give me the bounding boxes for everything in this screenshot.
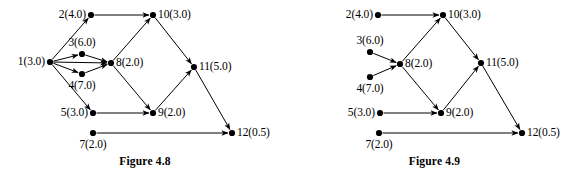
graph-edge-9-to-11 bbox=[443, 66, 478, 110]
graph-edge-3-to-8 bbox=[373, 53, 396, 62]
graph-node-label-10: 10(3.0) bbox=[448, 9, 481, 21]
figure-caption-4-8: Figure 4.8 bbox=[0, 155, 290, 167]
graph-node-label-2: 2(4.0) bbox=[346, 9, 373, 21]
graph-node-4 bbox=[79, 71, 85, 77]
graph-canvas-figure-4-8 bbox=[0, 0, 290, 174]
figure-caption-4-9: Figure 4.9 bbox=[290, 155, 579, 167]
graph-edge-8-to-9 bbox=[113, 66, 150, 110]
graph-node-11 bbox=[191, 64, 197, 70]
graph-node-4 bbox=[367, 74, 373, 80]
graph-node-label-4: 4(7.0) bbox=[68, 80, 95, 92]
graph-node-12 bbox=[519, 130, 525, 136]
graph-edge-11-to-12 bbox=[196, 70, 230, 129]
graph-edge-10-to-11 bbox=[445, 18, 478, 60]
graph-node-12 bbox=[229, 130, 235, 136]
figure-4-9: Figure 4.9 2(4.0)3(6.0)4(7.0)5(3.0)7(2.0… bbox=[290, 0, 579, 174]
graph-node-label-8: 8(2.0) bbox=[405, 58, 432, 70]
graph-edge-1-to-4 bbox=[53, 63, 78, 72]
graph-node-label-2: 2(4.0) bbox=[59, 9, 86, 21]
graph-edge-8-to-10 bbox=[402, 18, 440, 61]
graph-node-9 bbox=[438, 110, 444, 116]
graph-node-7 bbox=[376, 130, 382, 136]
graph-node-9 bbox=[150, 110, 156, 116]
graph-node-8 bbox=[397, 61, 403, 67]
graph-node-label-11: 11(5.0) bbox=[486, 57, 518, 69]
graph-edge-3-to-8 bbox=[85, 55, 107, 62]
graph-node-label-9: 9(2.0) bbox=[158, 107, 185, 119]
graph-edge-8-to-10 bbox=[113, 18, 150, 60]
graph-edge-11-to-12 bbox=[483, 66, 520, 129]
graph-node-label-5: 5(3.0) bbox=[348, 107, 375, 119]
graph-node-label-7: 7(2.0) bbox=[79, 139, 106, 151]
graph-node-label-10: 10(3.0) bbox=[158, 9, 191, 21]
graph-node-label-9: 9(2.0) bbox=[446, 107, 473, 119]
graph-node-7 bbox=[90, 130, 96, 136]
figures-container: Figure 4.8 1(3.0)2(4.0)3(6.0)4(7.0)5(3.0… bbox=[0, 0, 579, 174]
graph-edge-1-to-3 bbox=[53, 55, 78, 61]
graph-node-2 bbox=[375, 12, 381, 18]
graph-node-label-5: 5(3.0) bbox=[61, 107, 88, 119]
graph-node-label-8: 8(2.0) bbox=[116, 57, 143, 69]
graph-edge-4-to-8 bbox=[85, 64, 107, 72]
graph-node-2 bbox=[88, 12, 94, 18]
graph-node-10 bbox=[440, 12, 446, 18]
graph-node-3 bbox=[79, 51, 85, 57]
graph-node-5 bbox=[90, 110, 96, 116]
graph-node-label-12: 12(0.5) bbox=[237, 127, 270, 139]
graph-edge-4-to-8 bbox=[373, 66, 396, 76]
graph-node-3 bbox=[367, 49, 373, 55]
graph-node-5 bbox=[377, 110, 383, 116]
graph-node-label-7: 7(2.0) bbox=[365, 139, 392, 151]
graph-node-label-11: 11(5.0) bbox=[199, 61, 231, 73]
graph-edge-8-to-9 bbox=[402, 67, 438, 110]
graph-node-label-3: 3(6.0) bbox=[68, 37, 95, 49]
graph-edge-9-to-11 bbox=[155, 70, 191, 110]
graph-node-label-12: 12(0.5) bbox=[527, 127, 560, 139]
graph-canvas-figure-4-9 bbox=[290, 0, 579, 174]
graph-edge-1-to-8 bbox=[54, 62, 107, 63]
graph-node-10 bbox=[150, 12, 156, 18]
graph-node-1 bbox=[47, 59, 53, 65]
graph-edge-10-to-11 bbox=[155, 18, 191, 64]
graph-node-label-1: 1(3.0) bbox=[18, 56, 45, 68]
graph-node-11 bbox=[478, 60, 484, 66]
figure-4-8: Figure 4.8 1(3.0)2(4.0)3(6.0)4(7.0)5(3.0… bbox=[0, 0, 290, 174]
graph-node-8 bbox=[108, 60, 114, 66]
graph-node-label-4: 4(7.0) bbox=[356, 83, 383, 95]
graph-node-label-3: 3(6.0) bbox=[356, 35, 383, 47]
